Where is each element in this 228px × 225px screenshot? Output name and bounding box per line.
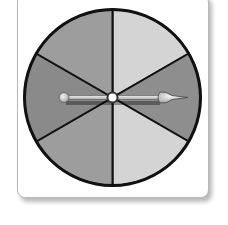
arrow-tail-icon (59, 93, 69, 103)
hub-icon (108, 93, 118, 103)
spinner (0, 0, 228, 225)
